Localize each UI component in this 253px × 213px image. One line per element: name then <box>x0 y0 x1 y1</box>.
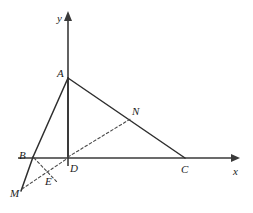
y-axis-arrowhead <box>64 11 72 21</box>
y-axis-label: y <box>57 13 62 24</box>
point-label-c: C <box>181 164 188 175</box>
geometry-figure: A B C D N E M x y <box>0 0 253 213</box>
x-axis-label: x <box>233 166 238 177</box>
point-label-m: M <box>10 188 19 199</box>
point-label-e: E <box>45 176 52 187</box>
point-label-a: A <box>57 68 64 79</box>
figure-canvas <box>0 0 253 213</box>
segment-a-b <box>33 78 68 157</box>
point-label-d: D <box>70 163 78 174</box>
point-label-b: B <box>19 150 26 161</box>
point-label-n: N <box>132 106 139 117</box>
segment-d-n <box>68 118 132 157</box>
x-axis-arrowhead <box>231 154 240 162</box>
